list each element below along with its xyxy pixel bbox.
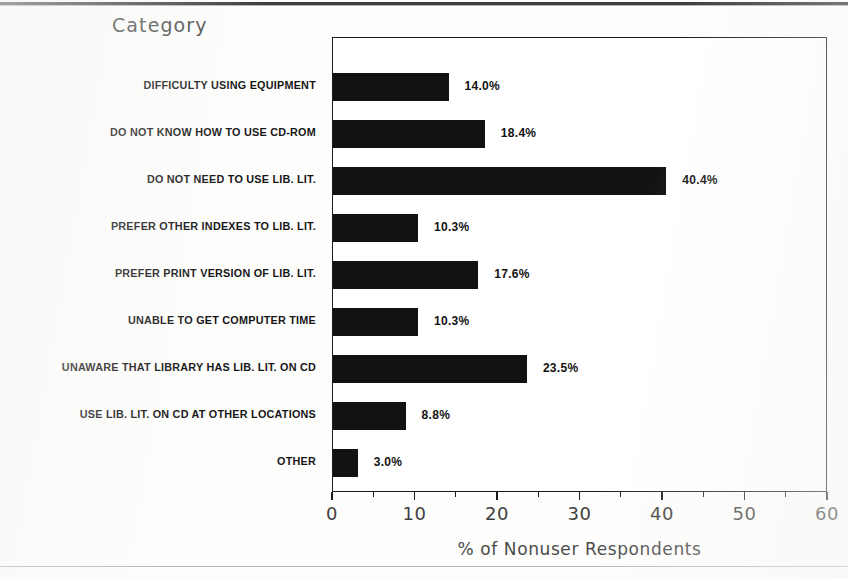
scan-artifact-bottom-edge: [0, 566, 848, 567]
bar: [333, 308, 418, 336]
x-tick-minor: [373, 492, 374, 497]
x-tick-major: [414, 492, 415, 500]
x-tick-minor: [703, 492, 704, 497]
x-tick-minor: [620, 492, 621, 497]
category-label: UNAWARE THAT LIBRARY HAS LIB. LIT. ON CD: [11, 361, 316, 373]
x-tick-major: [826, 492, 827, 500]
x-tick-major: [744, 492, 745, 500]
bar-value-label: 18.4%: [501, 126, 537, 140]
scan-artifact-top-edge-secondary: [0, 5, 848, 6]
bar-value-label: 40.4%: [682, 173, 718, 187]
bar-value-label: 10.3%: [434, 220, 470, 234]
chart-page: Category DIFFICULTY USING EQUIPMENTDO NO…: [0, 0, 848, 579]
x-tick-label: 60: [815, 503, 839, 524]
bar: [333, 261, 478, 289]
x-axis-title: % of Nonuser Respondents: [332, 539, 827, 559]
category-label: UNABLE TO GET COMPUTER TIME: [11, 314, 316, 326]
x-tick-major: [579, 492, 580, 500]
bar-value-label: 23.5%: [543, 361, 579, 375]
bar-value-label: 8.8%: [422, 408, 451, 422]
category-label: OTHER: [11, 455, 316, 467]
bar: [333, 449, 358, 477]
x-tick-minor: [785, 492, 786, 497]
bar-value-label: 10.3%: [434, 314, 470, 328]
plot-area: 14.0%18.4%40.4%10.3%17.6%10.3%23.5%8.8%3…: [332, 37, 827, 492]
bar-value-label: 17.6%: [494, 267, 530, 281]
x-tick-label: 10: [403, 503, 427, 524]
x-tick-minor: [538, 492, 539, 497]
bar-value-label: 14.0%: [465, 79, 501, 93]
bar: [333, 402, 406, 430]
category-label: DO NOT NEED TO USE LIB. LIT.: [11, 173, 316, 185]
x-axis-ticks: [332, 492, 827, 502]
x-tick-major: [661, 492, 662, 500]
bar: [333, 120, 485, 148]
bar-value-label: 3.0%: [374, 455, 403, 469]
x-tick-major: [496, 492, 497, 500]
category-label: PREFER OTHER INDEXES TO LIB. LIT.: [11, 220, 316, 232]
category-label: USE LIB. LIT. ON CD AT OTHER LOCATIONS: [11, 408, 316, 420]
bar: [333, 73, 449, 101]
category-axis-heading: Category: [112, 14, 208, 36]
x-tick-label: 20: [485, 503, 509, 524]
x-tick-label: 40: [650, 503, 674, 524]
category-label: DO NOT KNOW HOW TO USE CD-ROM: [11, 126, 316, 138]
bar: [333, 167, 666, 195]
x-tick-label: 0: [326, 503, 338, 524]
bar: [333, 355, 527, 383]
x-tick-major: [331, 492, 332, 500]
category-label: PREFER PRINT VERSION OF LIB. LIT.: [11, 267, 316, 279]
bar: [333, 214, 418, 242]
x-axis-tick-labels: 0102030405060: [332, 503, 827, 531]
x-tick-minor: [455, 492, 456, 497]
category-label: DIFFICULTY USING EQUIPMENT: [11, 79, 316, 91]
category-label-column: DIFFICULTY USING EQUIPMENTDO NOT KNOW HO…: [0, 37, 322, 492]
x-tick-label: 50: [733, 503, 757, 524]
x-tick-label: 30: [568, 503, 592, 524]
